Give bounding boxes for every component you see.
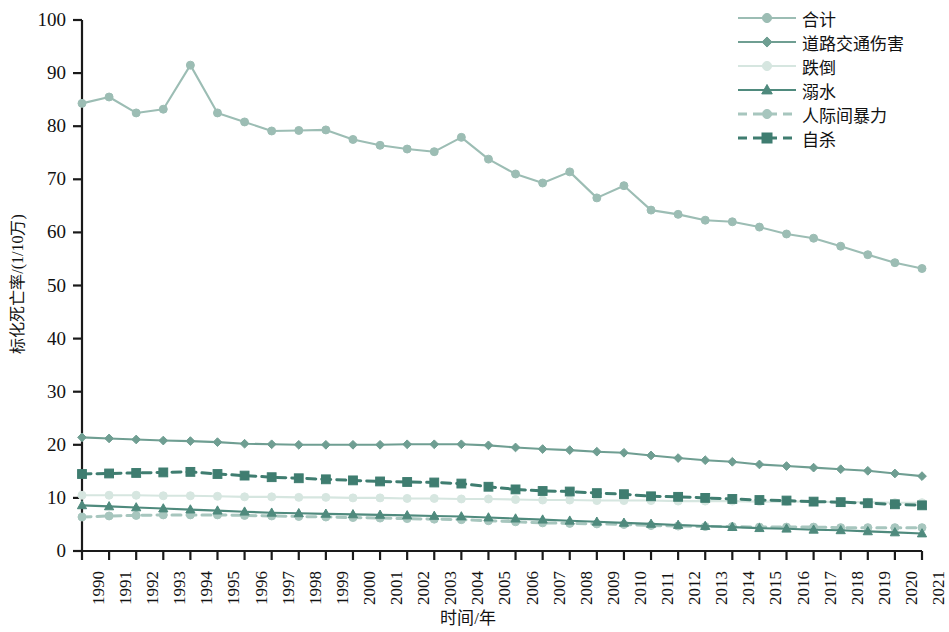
- legend-swatch-icon: [736, 30, 798, 54]
- legend-swatch-icon: [736, 78, 798, 102]
- series-2: [78, 491, 926, 506]
- legend-label: 跌倒: [802, 54, 836, 79]
- legend-item-1[interactable]: 道路交通伤害: [736, 30, 936, 54]
- legend-item-3[interactable]: 溺水: [736, 78, 936, 102]
- legend-label: 自杀: [802, 126, 836, 151]
- legend-swatch-icon: [736, 54, 798, 78]
- legend-label: 溺水: [802, 78, 836, 103]
- legend-label: 合计: [802, 6, 836, 31]
- legend-item-0[interactable]: 合计: [736, 6, 936, 30]
- series-5: [78, 467, 927, 509]
- series-3: [77, 501, 926, 537]
- legend-item-4[interactable]: 人际间暴力: [736, 102, 936, 126]
- legend-item-5[interactable]: 自杀: [736, 126, 936, 150]
- legend-label: 人际间暴力: [802, 102, 887, 127]
- legend-swatch-icon: [736, 6, 798, 30]
- legend-label: 道路交通伤害: [802, 30, 904, 55]
- legend-item-2[interactable]: 跌倒: [736, 54, 936, 78]
- legend-swatch-icon: [736, 102, 798, 126]
- chart-legend: 合计道路交通伤害跌倒溺水人际间暴力自杀: [736, 6, 936, 150]
- legend-swatch-icon: [736, 126, 798, 150]
